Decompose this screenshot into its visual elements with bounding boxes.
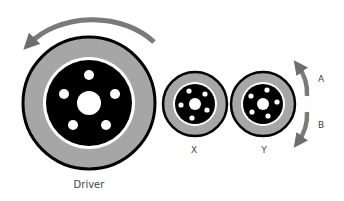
wheel-y-label: Y xyxy=(261,145,267,155)
wheel-x xyxy=(163,72,227,136)
wheel-x-label: X xyxy=(191,145,197,155)
gear-diagram xyxy=(0,0,344,201)
arrow-b-icon xyxy=(298,112,307,142)
wheel-y xyxy=(231,72,295,136)
arrow-a-icon xyxy=(298,66,307,96)
driver-label: Driver xyxy=(74,179,105,190)
driver-wheel xyxy=(23,37,155,169)
arrow-a-label: A xyxy=(318,74,324,84)
arrow-b-label: B xyxy=(318,120,324,130)
